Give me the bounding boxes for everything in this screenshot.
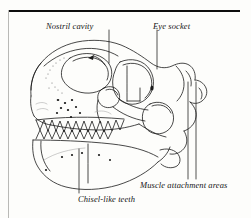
label-chisel-like-teeth: Chisel-like teeth	[78, 194, 135, 204]
label-eye-socket: Eye socket	[153, 21, 190, 31]
label-muscle-attachment-areas: Muscle attachment areas	[140, 180, 227, 190]
label-nostril-cavity: Nostril cavity	[46, 21, 93, 31]
figure-page: Nostril cavity Eye socket Muscle attachm…	[0, 0, 251, 218]
